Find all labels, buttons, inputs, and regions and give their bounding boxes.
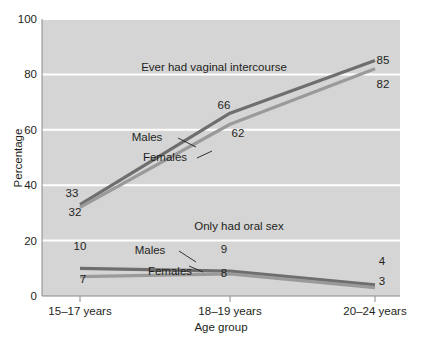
point-label-32-1: 32	[69, 206, 82, 218]
point-label-3-11: 3	[379, 275, 385, 287]
y-axis-title: Percentage	[12, 129, 24, 188]
y-tick-label-60: 60	[24, 124, 37, 136]
annotation-females-3: Females	[143, 151, 187, 163]
point-label-4-10: 4	[379, 255, 386, 267]
x-axis-ticks	[80, 296, 375, 302]
x-tick-label-2: 20–24 years	[343, 305, 407, 317]
y-tick-label-0: 0	[31, 290, 37, 302]
point-label-33-0: 33	[66, 187, 79, 199]
annotation-males-2: Males	[132, 131, 163, 143]
point-label-66-2: 66	[218, 99, 231, 111]
chart-container: 020406080100 3332666285821079843 Ever ha…	[0, 0, 424, 341]
annotation-ever-had-vaginal-intercourse-0: Ever had vaginal intercourse	[141, 61, 287, 73]
x-axis-tick-labels: 15–17 years18–19 years20–24 years	[48, 305, 407, 317]
x-axis-title: Age group	[194, 321, 247, 333]
x-tick-label-0: 15–17 years	[48, 305, 112, 317]
y-tick-label-100: 100	[18, 13, 37, 25]
point-label-62-3: 62	[232, 127, 245, 139]
annotation-only-had-oral-sex-1: Only had oral sex	[194, 220, 284, 232]
y-tick-label-40: 40	[24, 179, 37, 191]
annotation-females-5: Females	[148, 265, 192, 277]
point-label-85-4: 85	[377, 54, 390, 66]
line-chart: 020406080100 3332666285821079843 Ever ha…	[0, 0, 424, 341]
annotation-males-4: Males	[135, 244, 166, 256]
point-label-82-5: 82	[377, 78, 390, 90]
point-label-10-6: 10	[74, 240, 87, 252]
point-label-8-9: 8	[221, 267, 227, 279]
point-label-7-7: 7	[80, 273, 86, 285]
y-tick-label-80: 80	[24, 68, 37, 80]
y-tick-label-20: 20	[24, 235, 37, 247]
point-label-9-8: 9	[221, 243, 227, 255]
x-tick-label-1: 18–19 years	[198, 305, 262, 317]
